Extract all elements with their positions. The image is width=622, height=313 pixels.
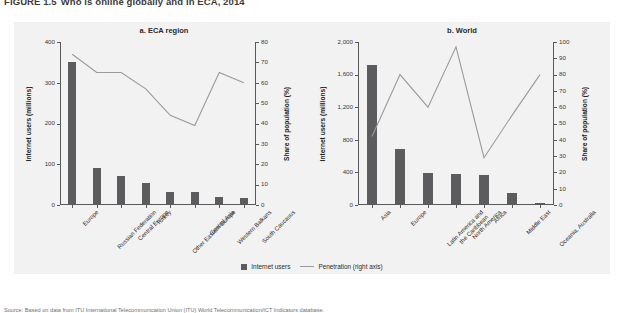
panel-b-plot-area: 04008001,2001,6002,000010203040506070809… <box>358 42 554 205</box>
y2-tick-label: 20 <box>559 169 566 175</box>
x-tick <box>540 205 541 208</box>
legend-item-internet-users: Internet users <box>241 263 290 270</box>
y-tick <box>57 205 60 206</box>
y2-tick <box>256 124 259 125</box>
x-tick <box>121 205 122 208</box>
y2-tick <box>554 124 557 125</box>
y2-tick <box>554 107 557 108</box>
figure-number: FIGURE 1.5 <box>4 0 57 7</box>
y2-tick-label: 80 <box>559 71 566 77</box>
y2-tick <box>554 75 557 76</box>
y2-tick-label: 100 <box>559 39 569 45</box>
y2-tick <box>554 205 557 206</box>
y-tick-label: 800 <box>343 137 353 143</box>
panel-a-left-axis-title: Internet users (millions) <box>25 86 32 161</box>
y-tick-label: 400 <box>343 169 353 175</box>
y2-tick <box>256 164 259 165</box>
x-axis-category-label: Turkey <box>155 209 173 227</box>
y2-tick-label: 30 <box>559 153 566 159</box>
x-axis-category-label: Europe <box>82 209 101 228</box>
y2-tick-label: 60 <box>261 80 268 86</box>
x-axis-category-label: Central Asia <box>208 209 236 237</box>
x-axis-category-label: Oceania, Australia <box>558 209 597 248</box>
legend-line-swatch <box>300 266 314 268</box>
y2-tick <box>256 103 259 104</box>
y-tick-label: 300 <box>45 80 55 86</box>
y-tick-label: 200 <box>45 120 55 126</box>
chart-panel-a: a. ECA region 01002003004000102030405060… <box>14 22 314 274</box>
y-tick-label: 100 <box>45 161 55 167</box>
y2-tick-label: 50 <box>261 100 268 106</box>
y-tick-label: 1,200 <box>338 104 353 110</box>
y2-tick-label: 80 <box>261 39 268 45</box>
y2-tick <box>554 42 557 43</box>
x-axis-category-label: Middle East <box>525 209 552 236</box>
y-tick-label: 400 <box>45 39 55 45</box>
x-tick <box>72 205 73 208</box>
y2-tick <box>554 58 557 59</box>
x-tick <box>428 205 429 208</box>
legend-bar-label: Internet users <box>251 263 290 270</box>
x-tick <box>97 205 98 208</box>
legend-item-penetration: Penetration (right axis) <box>300 263 382 270</box>
y2-tick <box>554 156 557 157</box>
y2-tick <box>554 189 557 190</box>
y2-tick-label: 70 <box>559 88 566 94</box>
y-tick-label: 1,600 <box>338 71 353 77</box>
y2-tick-label: 10 <box>261 181 268 187</box>
y2-tick-label: 40 <box>559 137 566 143</box>
y2-tick-label: 50 <box>559 120 566 126</box>
penetration-line <box>358 42 554 205</box>
y-tick <box>355 205 358 206</box>
y2-tick <box>256 205 259 206</box>
figure-panel-area: a. ECA region 01002003004000102030405060… <box>14 22 610 274</box>
x-tick <box>146 205 147 208</box>
source-note: Source: Based on data from ITU Internati… <box>4 307 324 313</box>
panel-b-right-axis-title: Share of population (%) <box>581 87 588 161</box>
y-tick-label: 2,000 <box>338 39 353 45</box>
x-tick <box>244 205 245 208</box>
y2-tick <box>554 140 557 141</box>
legend-line-label: Penetration (right axis) <box>318 263 382 270</box>
x-tick <box>170 205 171 208</box>
x-axis-category-label: Asia <box>379 209 392 222</box>
x-tick <box>512 205 513 208</box>
x-tick <box>195 205 196 208</box>
penetration-line <box>60 42 256 205</box>
y2-tick <box>256 42 259 43</box>
y-tick-label: 0 <box>350 202 353 208</box>
x-axis-category-label: Europe <box>410 209 429 228</box>
panel-a-plot-area: 010020030040001020304050607080 <box>60 42 256 205</box>
figure-title: FIGURE 1.5Who is online globally and in … <box>4 0 245 7</box>
y-tick-label: 0 <box>52 202 55 208</box>
y2-tick <box>256 185 259 186</box>
y2-tick <box>256 144 259 145</box>
x-tick <box>456 205 457 208</box>
x-tick <box>400 205 401 208</box>
y2-tick-label: 70 <box>261 59 268 65</box>
figure-title-text: Who is online globally and in ECA, 2014 <box>61 0 245 7</box>
panel-a-title: a. ECA region <box>14 26 314 35</box>
y2-tick <box>554 91 557 92</box>
y2-tick <box>256 62 259 63</box>
y2-tick <box>554 172 557 173</box>
y2-tick-label: 90 <box>559 55 566 61</box>
x-tick <box>372 205 373 208</box>
y2-tick-label: 0 <box>261 202 264 208</box>
y2-tick <box>256 83 259 84</box>
y2-tick-label: 10 <box>559 186 566 192</box>
chart-legend: Internet users Penetration (right axis) <box>14 263 610 270</box>
panel-b-title: b. World <box>314 26 610 35</box>
y2-tick-label: 40 <box>261 120 268 126</box>
x-tick <box>484 205 485 208</box>
y2-tick-label: 60 <box>559 104 566 110</box>
legend-bar-swatch <box>241 264 247 270</box>
chart-panel-b: b. World 04008001,2001,6002,000010203040… <box>314 22 610 274</box>
panel-b-left-axis-title: Internet users (millions) <box>319 86 326 161</box>
panel-a-right-axis-title: Share of population (%) <box>283 87 290 161</box>
y2-tick-label: 20 <box>261 161 268 167</box>
x-tick <box>219 205 220 208</box>
y2-tick-label: 30 <box>261 141 268 147</box>
y2-tick-label: 0 <box>559 202 562 208</box>
